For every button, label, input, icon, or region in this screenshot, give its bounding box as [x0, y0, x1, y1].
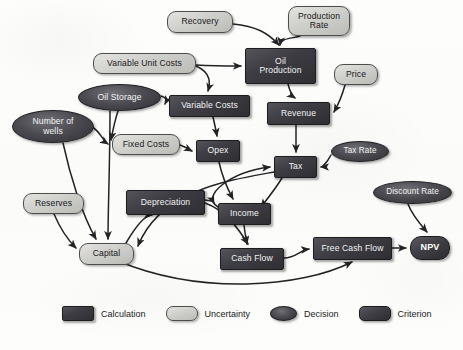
node-production-rate[interactable]: ProductionRate	[288, 6, 350, 36]
node-label-opex: Opex	[197, 146, 239, 155]
node-label-revenue: Revenue	[268, 109, 329, 118]
node-opex[interactable]: Opex	[196, 140, 240, 162]
legend-swatch-calculation-icon	[62, 306, 94, 321]
node-label-npv: NPV	[411, 243, 449, 253]
edge-discount-rate-to-npv	[408, 204, 427, 232]
legend-swatch-uncertainty-icon	[166, 306, 198, 321]
edge-price-to-revenue	[334, 85, 345, 112]
legend-swatch-criterion-icon	[359, 306, 391, 321]
edge-cash-flow-to-free-cash-flow	[284, 249, 309, 258]
node-variable-costs[interactable]: Variable Costs	[169, 95, 250, 117]
node-label-variable-unit-costs: Variable Unit Costs	[94, 59, 195, 68]
node-number-of-wells[interactable]: Number ofwells	[12, 110, 94, 143]
node-label-capital: Capital	[80, 249, 133, 258]
legend-item-decision: Decision	[270, 306, 339, 321]
node-tax-rate[interactable]: Tax Rate	[331, 141, 389, 162]
node-price[interactable]: Price	[334, 64, 378, 85]
node-label-price: Price	[335, 70, 377, 79]
node-oil-production[interactable]: OilProduction	[245, 48, 316, 84]
edge-number-of-wells-to-fixed-costs	[92, 127, 108, 144]
legend-item-uncertainty: Uncertainty	[166, 306, 251, 321]
node-label-oil-production: OilProduction	[246, 57, 315, 75]
node-depreciation[interactable]: Depreciation	[126, 190, 205, 215]
node-label-discount-rate: Discount Rate	[374, 188, 451, 197]
node-cash-flow[interactable]: Cash Flow	[220, 248, 284, 270]
edge-number-of-wells-to-capital	[63, 143, 96, 239]
node-label-reserves: Reserves	[24, 199, 83, 208]
node-label-tax: Tax	[275, 162, 316, 171]
node-npv[interactable]: NPV	[410, 236, 450, 260]
node-fixed-costs[interactable]: Fixed Costs	[112, 134, 180, 155]
legend-swatch-decision-icon	[270, 306, 297, 321]
edge-layer	[0, 0, 463, 350]
node-label-cash-flow: Cash Flow	[221, 254, 283, 263]
node-label-free-cash-flow: Free Cash Flow	[314, 244, 391, 253]
node-income[interactable]: Income	[218, 203, 271, 225]
legend-label-decision: Decision	[304, 309, 339, 319]
edge-reserves-to-capital	[54, 214, 76, 248]
node-oil-storage[interactable]: Oil Storage	[78, 84, 161, 111]
node-revenue[interactable]: Revenue	[267, 102, 330, 125]
edge-variable-costs-to-opex	[213, 117, 217, 136]
node-label-fixed-costs: Fixed Costs	[113, 140, 179, 149]
edge-oil-storage-to-variable-costs	[161, 96, 166, 104]
influence-diagram-canvas: RecoveryProductionRateVariable Unit Cost…	[0, 0, 463, 350]
node-capital[interactable]: Capital	[79, 243, 134, 265]
edge-fixed-costs-to-opex	[180, 145, 192, 151]
edge-oil-production-to-revenue	[288, 84, 295, 98]
node-label-variable-costs: Variable Costs	[170, 101, 249, 110]
node-tax[interactable]: Tax	[274, 156, 317, 178]
legend-label-uncertainty: Uncertainty	[205, 309, 251, 319]
edge-oil-storage-to-capital	[108, 111, 110, 239]
legend-label-criterion: Criterion	[398, 309, 432, 319]
node-label-production-rate: ProductionRate	[289, 12, 349, 30]
node-reserves[interactable]: Reserves	[23, 193, 84, 214]
edge-recovery-to-oil-production	[233, 24, 279, 45]
edge-tax-rate-to-tax	[321, 155, 331, 167]
node-label-tax-rate: Tax Rate	[332, 147, 388, 156]
node-free-cash-flow[interactable]: Free Cash Flow	[313, 237, 392, 260]
legend-item-criterion: Criterion	[359, 306, 432, 321]
node-label-recovery: Recovery	[168, 17, 232, 26]
edge-variable-unit-costs-to-variable-costs	[196, 66, 209, 91]
edge-variable-unit-costs-to-oil-production	[196, 65, 241, 66]
node-variable-unit-costs[interactable]: Variable Unit Costs	[93, 53, 196, 74]
node-label-number-of-wells: Number ofwells	[13, 117, 93, 135]
edge-capital-to-depreciation	[126, 215, 152, 243]
node-discount-rate[interactable]: Discount Rate	[373, 181, 452, 204]
node-label-income: Income	[219, 209, 270, 218]
node-label-depreciation: Depreciation	[127, 198, 204, 207]
legend: CalculationUncertaintyDecisionCriterion	[62, 306, 452, 321]
edge-production-rate-to-oil-production	[280, 36, 300, 45]
legend-label-calculation: Calculation	[101, 309, 146, 319]
legend-item-calculation: Calculation	[62, 306, 146, 321]
node-label-oil-storage: Oil Storage	[79, 93, 160, 102]
node-recovery[interactable]: Recovery	[167, 11, 233, 33]
